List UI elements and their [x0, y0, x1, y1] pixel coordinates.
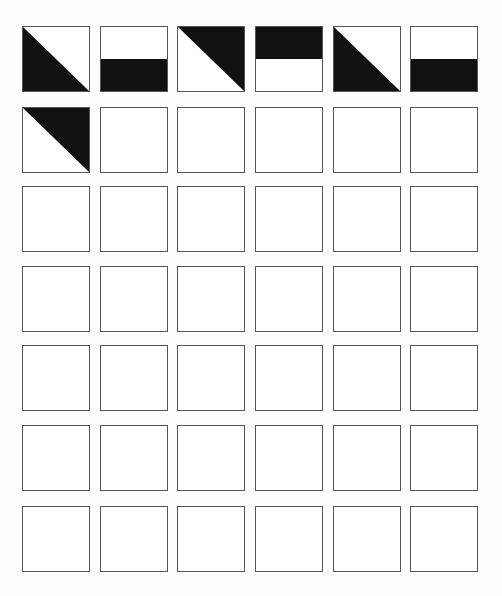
tile-r1-c4-half-top[interactable]	[255, 26, 323, 92]
tile-r1-c1-tri-bottom-left[interactable]	[22, 26, 90, 92]
tile-r1-c3-tri-top-right[interactable]	[177, 26, 245, 92]
tile-r6-c3-empty[interactable]	[177, 425, 245, 491]
tile-r5-c6-empty[interactable]	[410, 345, 478, 411]
tile-r5-c5-empty[interactable]	[333, 345, 401, 411]
tile-r7-c6-empty[interactable]	[410, 506, 478, 572]
tile-r5-c4-empty[interactable]	[255, 345, 323, 411]
tri-bottom-left-fill-icon	[23, 27, 89, 91]
tile-r6-c5-empty[interactable]	[333, 425, 401, 491]
tile-r1-c2-half-bottom[interactable]	[100, 26, 168, 92]
tile-r4-c3-empty[interactable]	[177, 266, 245, 332]
tile-r2-c6-empty[interactable]	[410, 107, 478, 173]
tile-r3-c5-empty[interactable]	[333, 186, 401, 252]
tile-r7-c2-empty[interactable]	[100, 506, 168, 572]
tile-r3-c3-empty[interactable]	[177, 186, 245, 252]
tile-r2-c1-tri-top-right[interactable]	[22, 107, 90, 173]
tile-r4-c1-empty[interactable]	[22, 266, 90, 332]
tile-r6-c1-empty[interactable]	[22, 425, 90, 491]
tile-r5-c2-empty[interactable]	[100, 345, 168, 411]
half-bottom-fill-icon	[411, 27, 477, 91]
tri-top-right-fill-icon	[178, 27, 244, 91]
half-top-fill-icon	[256, 27, 322, 91]
half-bottom-fill-icon	[101, 27, 167, 91]
tile-r6-c4-empty[interactable]	[255, 425, 323, 491]
tile-r7-c5-empty[interactable]	[333, 506, 401, 572]
tile-r3-c4-empty[interactable]	[255, 186, 323, 252]
tile-r4-c5-empty[interactable]	[333, 266, 401, 332]
tile-r7-c4-empty[interactable]	[255, 506, 323, 572]
tile-r7-c1-empty[interactable]	[22, 506, 90, 572]
tile-r4-c4-empty[interactable]	[255, 266, 323, 332]
tile-r1-c5-tri-bottom-left[interactable]	[333, 26, 401, 92]
tile-r4-c6-empty[interactable]	[410, 266, 478, 332]
tile-r2-c2-empty[interactable]	[100, 107, 168, 173]
tile-r6-c6-empty[interactable]	[410, 425, 478, 491]
tile-r5-c1-empty[interactable]	[22, 345, 90, 411]
tile-r2-c3-empty[interactable]	[177, 107, 245, 173]
pattern-puzzle-board	[0, 0, 502, 596]
tile-r5-c3-empty[interactable]	[177, 345, 245, 411]
tile-r7-c3-empty[interactable]	[177, 506, 245, 572]
tile-r3-c2-empty[interactable]	[100, 186, 168, 252]
tile-r3-c6-empty[interactable]	[410, 186, 478, 252]
tile-r6-c2-empty[interactable]	[100, 425, 168, 491]
tile-r1-c6-half-bottom[interactable]	[410, 26, 478, 92]
tile-r2-c4-empty[interactable]	[255, 107, 323, 173]
tile-r2-c5-empty[interactable]	[333, 107, 401, 173]
tile-r3-c1-empty[interactable]	[22, 186, 90, 252]
tile-r4-c2-empty[interactable]	[100, 266, 168, 332]
tri-top-right-fill-icon	[23, 108, 89, 172]
tri-bottom-left-fill-icon	[334, 27, 400, 91]
